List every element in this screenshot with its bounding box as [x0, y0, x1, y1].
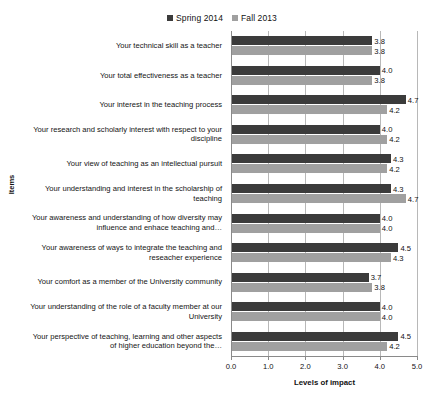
legend-label-spring-2014: Spring 2014: [176, 13, 223, 23]
bar-slot: 4.2: [231, 105, 417, 114]
bar-group: 4.54.3: [231, 238, 417, 268]
bar-slot: 4.5: [231, 243, 417, 252]
bar-group: 3.83.8: [231, 31, 417, 61]
bar-value-label: 4.0: [380, 224, 393, 233]
bar-slot: 3.7: [231, 273, 417, 282]
bar-slot: 4.5: [231, 332, 417, 341]
bar-spring-2014: [231, 273, 369, 282]
y-axis-line: [231, 31, 232, 356]
bar-spring-2014: [231, 36, 372, 45]
legend-swatch-fall-2013: [232, 15, 238, 21]
bar-fall-2013: [231, 283, 372, 292]
bar-group: 4.54.2: [231, 326, 417, 356]
bar-slot: 4.7: [231, 194, 417, 203]
x-axis-tick: [417, 356, 418, 360]
chart-row: Your technical skill as a teacher3.83.8: [0, 31, 444, 61]
bar-slot: 4.2: [231, 164, 417, 173]
x-axis-tick-label: 2.0: [300, 362, 311, 371]
category-label: Your understanding of the role of a facu…: [28, 297, 226, 327]
bar-value-label: 4.0: [380, 66, 393, 75]
bar-fall-2013: [231, 224, 380, 233]
bar-slot: 3.8: [231, 46, 417, 55]
bar-group: 4.04.0: [231, 297, 417, 327]
x-axis-tick-label: 1.0: [263, 362, 274, 371]
chart-row: Your interest in the teaching process4.7…: [0, 90, 444, 120]
bar-fall-2013: [231, 342, 387, 351]
bar-group: 4.04.0: [231, 208, 417, 238]
bar-value-label: 4.2: [387, 135, 400, 144]
bar-slot: 4.0: [231, 224, 417, 233]
chart-row: Your total effectiveness as a teacher4.0…: [0, 61, 444, 91]
bar-value-label: 4.0: [380, 125, 393, 134]
bar-spring-2014: [231, 184, 391, 193]
x-axis-tick: [268, 356, 269, 360]
category-label: Your awareness of ways to integrate the …: [28, 238, 226, 268]
chart-row: Your understanding of the role of a facu…: [0, 297, 444, 327]
bar-slot: 4.0: [231, 312, 417, 321]
category-label: Your research and scholarly interest wit…: [28, 120, 226, 150]
x-axis-tick: [343, 356, 344, 360]
bar-fall-2013: [231, 312, 380, 321]
bar-spring-2014: [231, 243, 398, 252]
bar-slot: 4.3: [231, 154, 417, 163]
bar-spring-2014: [231, 95, 406, 104]
bar-value-label: 3.8: [372, 76, 385, 85]
bar-fall-2013: [231, 105, 387, 114]
category-label: Your technical skill as a teacher: [28, 31, 226, 61]
bar-value-label: 4.0: [380, 214, 393, 223]
bar-spring-2014: [231, 66, 380, 75]
bar-slot: 4.0: [231, 125, 417, 134]
x-axis-tick-label: 3.0: [337, 362, 348, 371]
category-label: Your perspective of teaching, learning a…: [28, 326, 226, 356]
bar-slot: 4.7: [231, 95, 417, 104]
bar-value-label: 4.3: [391, 253, 404, 262]
legend-label-fall-2013: Fall 2013: [241, 13, 277, 23]
bar-spring-2014: [231, 214, 380, 223]
category-label: Your comfort as a member of the Universi…: [28, 267, 226, 297]
chart-rows: Your technical skill as a teacher3.83.8Y…: [0, 31, 444, 356]
bar-value-label: 3.8: [372, 36, 385, 45]
bar-value-label: 4.7: [406, 95, 419, 104]
legend-entry-spring-2014: Spring 2014: [167, 13, 223, 23]
bar-slot: 4.0: [231, 302, 417, 311]
bar-value-label: 4.3: [391, 184, 404, 193]
x-axis-tick-label: 0.0: [226, 362, 237, 371]
x-axis-title: Levels of impact: [231, 378, 418, 387]
x-axis-tick-label: 5.0: [412, 362, 423, 371]
bar-value-label: 4.7: [406, 194, 419, 203]
bar-spring-2014: [231, 332, 398, 341]
category-label: Your understanding and interest in the s…: [28, 179, 226, 209]
bar-spring-2014: [231, 154, 391, 163]
bar-value-label: 4.5: [398, 243, 411, 252]
bar-group: 4.74.2: [231, 90, 417, 120]
category-label: Your interest in the teaching process: [28, 90, 226, 120]
bar-fall-2013: [231, 253, 391, 262]
x-axis-tick: [231, 356, 232, 360]
bar-slot: 4.0: [231, 214, 417, 223]
bar-value-label: 3.8: [372, 46, 385, 55]
bar-value-label: 4.0: [380, 312, 393, 321]
bar-value-label: 4.0: [380, 302, 393, 311]
bar-slot: 3.8: [231, 76, 417, 85]
bar-spring-2014: [231, 302, 380, 311]
bar-slot: 4.0: [231, 66, 417, 75]
legend-swatch-spring-2014: [167, 15, 173, 21]
category-label: Your view of teaching as an intellectual…: [28, 149, 226, 179]
bar-group: 4.04.2: [231, 120, 417, 150]
chart-row: Your comfort as a member of the Universi…: [0, 267, 444, 297]
bar-slot: 4.3: [231, 184, 417, 193]
category-label: Your awareness and understanding of how …: [28, 208, 226, 238]
bar-value-label: 4.2: [387, 164, 400, 173]
bar-group: 4.34.2: [231, 149, 417, 179]
bar-group: 3.73.8: [231, 267, 417, 297]
bar-fall-2013: [231, 194, 406, 203]
bar-group: 4.03.8: [231, 61, 417, 91]
bar-value-label: 4.5: [398, 332, 411, 341]
category-label: Your total effectiveness as a teacher: [28, 61, 226, 91]
bar-slot: 3.8: [231, 283, 417, 292]
bar-slot: 4.3: [231, 253, 417, 262]
x-axis-tick: [305, 356, 306, 360]
chart-row: Your awareness and understanding of how …: [0, 208, 444, 238]
bar-chart: Spring 2014 Fall 2013 Items Your technic…: [0, 0, 444, 407]
bar-value-label: 4.3: [391, 154, 404, 163]
